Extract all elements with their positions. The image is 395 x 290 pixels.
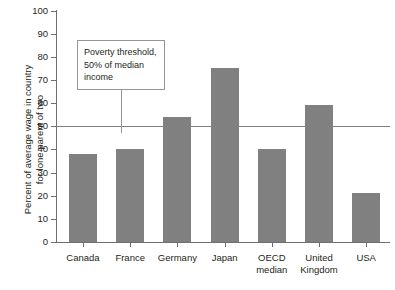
x-tick-label: USA [335,252,395,264]
y-tick [51,242,56,243]
x-tick [272,243,273,247]
x-tick [177,243,178,247]
x-tick [130,243,131,247]
annotation-text: Poverty threshold, 50% of median income [84,46,166,84]
bar [69,154,97,242]
y-tick-label: 20 [22,191,48,201]
y-tick [51,34,56,35]
y-tick [51,57,56,58]
bar [352,193,380,242]
y-tick [51,103,56,104]
x-tick [225,243,226,247]
y-tick [51,196,56,197]
threshold-line [56,126,390,127]
x-tick [319,243,320,247]
y-tick-label: 50 [22,121,48,131]
bar [116,149,144,242]
y-tick-label: 30 [22,168,48,178]
y-tick [51,11,56,12]
bar [258,149,286,242]
x-tick [366,243,367,247]
bar [211,68,239,242]
y-tick-label: 40 [22,144,48,154]
annotation-box: Poverty threshold, 50% of median income [77,40,165,90]
bar [163,117,191,242]
y-tick-label: 90 [22,29,48,39]
y-tick [51,80,56,81]
y-tick-label: 80 [22,52,48,62]
annotation-leader-line [121,90,122,133]
y-tick-label: 10 [22,214,48,224]
x-axis-line [56,242,390,243]
y-tick [51,149,56,150]
y-tick-label: 70 [22,75,48,85]
y-tick-label: 0 [22,237,48,247]
y-tick [51,219,56,220]
y-tick-label: 60 [22,98,48,108]
x-tick [83,243,84,247]
y-tick [51,173,56,174]
y-axis-label: Percent of average wage in country for l… [22,45,45,235]
bar-chart: Percent of average wage in country for l… [0,0,395,290]
y-tick-label: 100 [22,6,48,16]
